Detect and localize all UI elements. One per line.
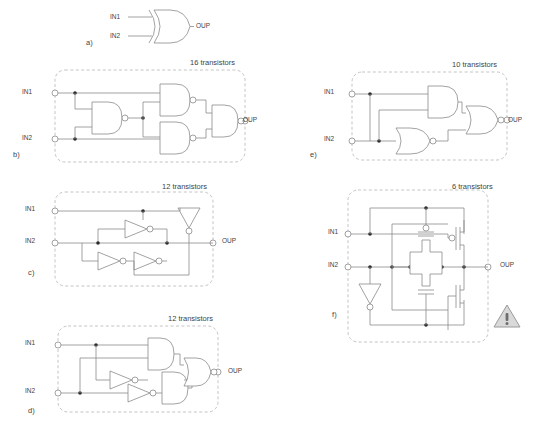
panel-f: 6 transistors f) IN1 IN2 OUP xyxy=(330,180,537,350)
panel-a-out-label: OUP xyxy=(196,22,210,29)
panel-c-transistor-count: 12 transistors xyxy=(162,182,207,191)
panel-a-caption: a) xyxy=(86,38,93,47)
panel-d-caption: d) xyxy=(28,406,35,415)
panel-f-caption: f) xyxy=(332,310,337,319)
panel-b-out-label: OUP xyxy=(243,116,257,123)
panel-d-transistor-count: 12 transistors xyxy=(168,314,213,323)
panel-b-schematic xyxy=(0,58,280,173)
panel-f-out-label: OUP xyxy=(500,261,514,268)
panel-a: a) IN1 IN2 OUP xyxy=(0,0,270,58)
panel-d-in2-label: IN2 xyxy=(25,387,35,394)
panel-b-caption: b) xyxy=(13,150,20,159)
panel-e-caption: e) xyxy=(310,150,317,159)
panel-f-in1-label: IN1 xyxy=(328,228,338,235)
panel-e: 10 transistors e) IN1 IN2 OUP xyxy=(300,58,537,173)
panel-e-transistor-count: 10 transistors xyxy=(452,60,497,69)
panel-f-in2-label: IN2 xyxy=(328,261,338,268)
panel-e-in1-label: IN1 xyxy=(324,88,334,95)
panel-a-in1-label: IN1 xyxy=(110,13,120,20)
panel-e-schematic xyxy=(300,58,537,173)
panel-d-in1-label: IN1 xyxy=(25,339,35,346)
panel-c-out-label: OUP xyxy=(222,237,236,244)
panel-d-out-label: OUP xyxy=(228,367,242,374)
panel-a-in2-label: IN2 xyxy=(110,32,120,39)
panel-c-in2-label: IN2 xyxy=(25,237,35,244)
panel-a-schematic xyxy=(0,0,270,58)
panel-d: 12 transistors d) IN1 IN2 OUP xyxy=(10,310,280,429)
panel-c: 12 transistors c) IN1 IN2 OUP xyxy=(10,180,280,300)
panel-b-in1-label: IN1 xyxy=(22,88,32,95)
panel-b-in2-label: IN2 xyxy=(22,134,32,141)
panel-e-out-label: OUP xyxy=(508,116,522,123)
panel-b-transistor-count: 16 transistors xyxy=(190,58,235,67)
panel-c-schematic xyxy=(10,180,280,300)
panel-b: 16 transistors b) IN1 IN2 OUP xyxy=(0,58,280,173)
panel-c-in1-label: IN1 xyxy=(25,205,35,212)
panel-f-transistor-count: 6 transistors xyxy=(452,182,493,191)
warning-triangle-icon xyxy=(492,302,522,330)
panel-e-in2-label: IN2 xyxy=(324,135,334,142)
panel-c-caption: c) xyxy=(28,268,35,277)
